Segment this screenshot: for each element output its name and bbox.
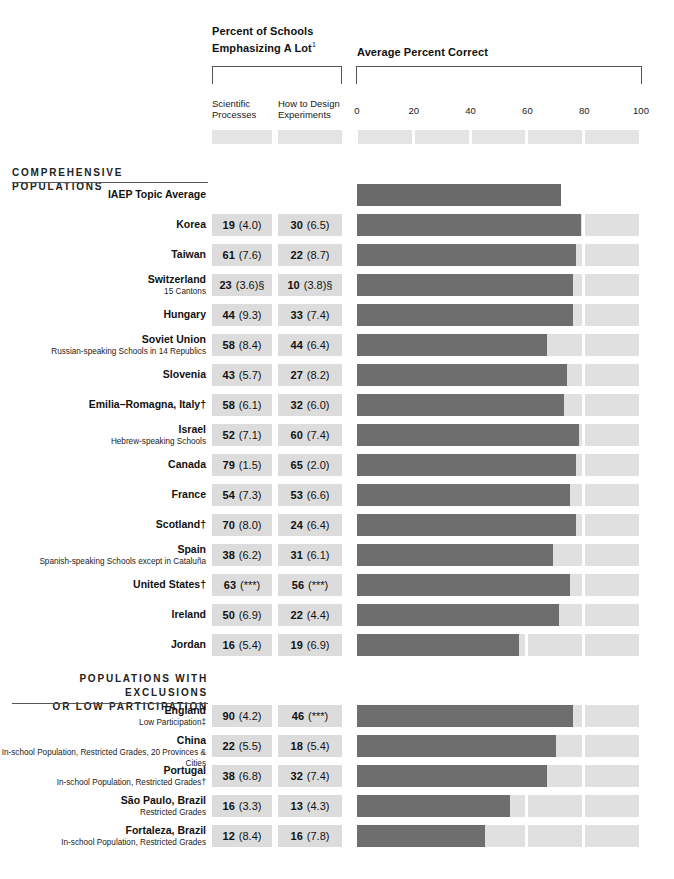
cell-scientific-processes: 70(8.0) [212,514,272,536]
table-row[interactable]: ChinaIn-school Population, Restricted Gr… [0,733,674,763]
column-header-scientific-processes-line1: Scientific [212,98,250,109]
bar-track-segment-4 [585,765,639,787]
row-label-name: Taiwan [0,249,206,260]
cell-value: 24 [291,519,303,531]
row-label: France [0,489,206,500]
cell-standard-error: (5.4) [239,639,262,651]
cell-standard-error: (2.0) [307,459,330,471]
bar-track [357,394,641,416]
bar-track-segment-4 [585,334,639,356]
bar-track-segment-4 [585,394,639,416]
row-label-name: China [0,735,206,746]
cell-value: 22 [291,609,303,621]
table-row[interactable]: United States†63(***)56(***) [0,572,674,602]
bar-track [357,765,641,787]
row-label: IAEP Topic Average [0,189,206,200]
table-row[interactable]: Soviet UnionRussian-speaking Schools in … [0,332,674,362]
table-row[interactable]: IAEP Topic Average [0,182,674,212]
cell-value: 52 [223,429,235,441]
cell-value: 33 [291,309,303,321]
table-row[interactable]: SpainSpanish-speaking Schools except in … [0,542,674,572]
cell-value: 22 [223,740,235,752]
table-row[interactable]: EnglandLow Participation‡90(4.2)46(***) [0,703,674,733]
row-label-sublabel: Low Participation‡ [0,717,206,728]
cell-value: 18 [291,740,303,752]
table-row[interactable]: Korea19(4.0)30(6.5) [0,212,674,242]
cell-how-to-design-experiments: 33(7.4) [278,304,342,326]
cell-value: 58 [223,399,235,411]
x-tick-0: 0 [345,105,369,116]
row-label-name: Korea [0,219,206,230]
cell-standard-error: (6.4) [307,519,330,531]
x-tick-100: 100 [629,105,653,116]
cell-standard-error: (6.9) [239,609,262,621]
bar-average-percent-correct [357,484,570,506]
bar-track-segment-4 [585,795,639,817]
bar-track [357,634,641,656]
cell-value: 61 [223,249,235,261]
table-row[interactable]: Taiwan61(7.6)22(8.7) [0,242,674,272]
table-row[interactable]: Ireland50(6.9)22(4.4) [0,602,674,632]
cell-how-to-design-experiments: 24(6.4) [278,514,342,536]
row-label-name: Switzerland [0,274,206,285]
row-label: EnglandLow Participation‡ [0,705,206,728]
group-a-bracket [212,66,342,84]
group-a-title: Percent of Schools Emphasizing A Lot1 [212,24,362,55]
cell-how-to-design-experiments: 18(5.4) [278,735,342,757]
column-header-how-to-design-experiments-line1: How to Design [278,98,340,109]
bar-track [357,244,641,266]
bar-track [357,184,641,206]
row-label: Ireland [0,609,206,620]
cell-standard-error: (7.4) [307,309,330,321]
bar-track [357,334,641,356]
cell-standard-error: (7.6) [239,249,262,261]
bar-track [357,795,641,817]
table-row[interactable]: France54(7.3)53(6.6) [0,482,674,512]
row-label-sublabel: Russian-speaking Schools in 14 Republics [0,346,206,357]
bar-track [357,364,641,386]
swatch-column-how-to-design-experiments [278,130,342,144]
row-label-name: Spain [0,544,206,555]
table-row[interactable]: Scotland†70(8.0)24(6.4) [0,512,674,542]
cell-value: 79 [223,459,235,471]
bar-average-percent-correct [357,604,559,626]
cell-scientific-processes: 38(6.8) [212,765,272,787]
bar-track [357,304,641,326]
cell-how-to-design-experiments: 53(6.6) [278,484,342,506]
row-label-name: Emilia–Romagna, Italy† [0,399,206,410]
row-label-name: Canada [0,459,206,470]
cell-scientific-processes: 19(4.0) [212,214,272,236]
cell-value: 10 [288,279,300,291]
table-row[interactable]: PortugalIn-school Population, Restricted… [0,763,674,793]
cell-standard-error: (3.3) [239,800,262,812]
bar-average-percent-correct [357,544,553,566]
cell-scientific-processes: 44(9.3) [212,304,272,326]
table-row[interactable]: Slovenia43(5.7)27(8.2) [0,362,674,392]
table-row[interactable]: Emilia–Romagna, Italy†58(6.1)32(6.0) [0,392,674,422]
bar-track [357,705,641,727]
cell-standard-error: (4.3) [307,800,330,812]
cell-value: 70 [223,519,235,531]
cell-how-to-design-experiments: 31(6.1) [278,544,342,566]
table-row[interactable]: Canada79(1.5)65(2.0) [0,452,674,482]
cell-value: 46 [292,710,304,722]
table-row[interactable]: Switzerland15 Cantons23(3.6)§10(3.8)§ [0,272,674,302]
table-row[interactable]: IsraelHebrew-speaking Schools52(7.1)60(7… [0,422,674,452]
cell-scientific-processes: 54(7.3) [212,484,272,506]
bar-average-percent-correct [357,274,573,296]
row-label: Emilia–Romagna, Italy† [0,399,206,410]
table-row[interactable]: Hungary44(9.3)33(7.4) [0,302,674,332]
group-b-title: Average Percent Correct [357,46,488,58]
swatch-scale-segment-4 [585,130,639,144]
cell-how-to-design-experiments: 10(3.8)§ [278,274,342,296]
cell-value: 63 [224,579,236,591]
bar-track [357,544,641,566]
table-row[interactable]: São Paulo, BrazilRestricted Grades16(3.3… [0,793,674,823]
bar-track-segment-4 [585,735,639,757]
cell-standard-error: (5.5) [239,740,262,752]
x-tick-40: 40 [459,105,483,116]
cell-value: 65 [291,459,303,471]
bar-track-segment-4 [585,214,639,236]
table-row[interactable]: Fortaleza, BrazilIn-school Population, R… [0,823,674,853]
table-row[interactable]: Jordan16(5.4)19(6.9) [0,632,674,662]
